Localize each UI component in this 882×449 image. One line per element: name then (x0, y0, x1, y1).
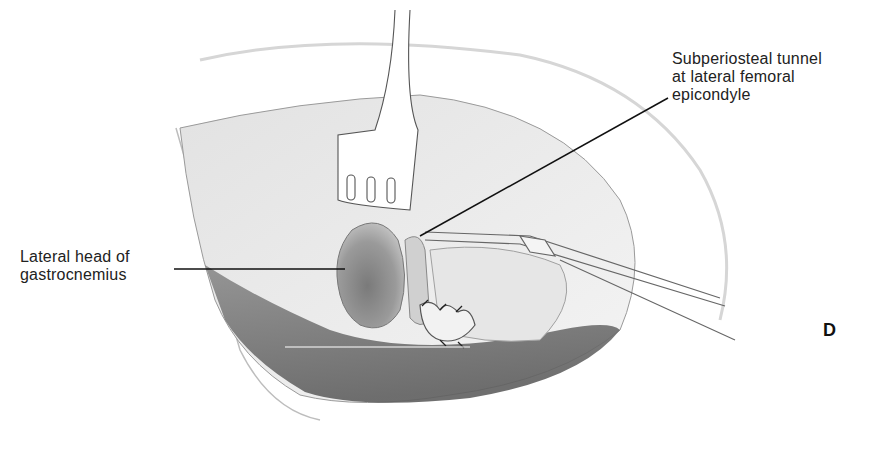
label-lateral-head-gastrocnemius: Lateral head of gastrocnemius (20, 248, 130, 284)
panel-label: D (823, 320, 836, 341)
label-subperiosteal-tunnel: Subperiosteal tunnel at lateral femoral … (672, 50, 822, 104)
gastrocnemius-muscle (337, 223, 405, 328)
